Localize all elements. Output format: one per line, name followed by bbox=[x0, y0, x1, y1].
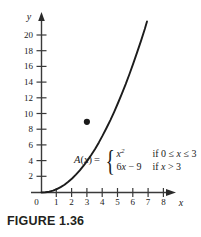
x-tick-label: 8 bbox=[161, 197, 166, 207]
y-axis-label: y bbox=[26, 11, 32, 22]
case-expression: 6x − 9 bbox=[116, 162, 152, 172]
y-tick-label: 4 bbox=[29, 156, 34, 166]
junction-point-marker bbox=[84, 119, 90, 125]
y-tick-label: 18 bbox=[24, 46, 34, 56]
case-expression: x2 bbox=[116, 148, 152, 159]
y-tick-label: 16 bbox=[24, 61, 34, 71]
case-condition: if x > 3 bbox=[152, 162, 181, 172]
x-tick-label: 7 bbox=[146, 197, 151, 207]
x-axis-tick-labels: 0 1 2 3 4 5 6 7 8 bbox=[34, 197, 166, 207]
case-row: 6x − 9 if x > 3 bbox=[116, 162, 196, 172]
y-tick-label: 8 bbox=[29, 124, 34, 134]
case-condition: if 0 ≤ x ≤ 3 bbox=[152, 149, 196, 159]
y-tick-label: 10 bbox=[24, 109, 34, 119]
x-axis-label: x bbox=[178, 197, 184, 208]
equals-sign: = bbox=[92, 155, 102, 166]
y-tick-label: 6 bbox=[29, 140, 34, 150]
case-row: x2 if 0 ≤ x ≤ 3 bbox=[116, 148, 196, 159]
x-tick-label: 1 bbox=[54, 197, 59, 207]
x-tick-label: 6 bbox=[131, 197, 136, 207]
y-tick-label: 2 bbox=[29, 171, 34, 181]
x-tick-label: 4 bbox=[100, 197, 105, 207]
y-tick-label: 20 bbox=[24, 30, 34, 40]
x-tick-label: 3 bbox=[85, 197, 90, 207]
figure-container: 2 4 6 8 10 12 14 16 18 20 0 1 2 3 4 5 6 … bbox=[0, 0, 201, 237]
cases-list: x2 if 0 ≤ x ≤ 3 6x − 9 if x > 3 bbox=[116, 148, 196, 172]
y-tick-label: 12 bbox=[24, 93, 33, 103]
x-tick-label: 5 bbox=[115, 197, 120, 207]
x-tick-label: 0 bbox=[34, 197, 39, 207]
y-axis bbox=[38, 12, 45, 192]
function-label: A(x) bbox=[74, 155, 92, 166]
left-brace: { bbox=[106, 148, 115, 173]
piecewise-formula: A(x) = { x2 if 0 ≤ x ≤ 3 6x − 9 if x > 3 bbox=[74, 141, 200, 179]
figure-caption: FIGURE 1.36 bbox=[7, 214, 84, 228]
y-axis-tick-labels: 2 4 6 8 10 12 14 16 18 20 bbox=[24, 30, 34, 181]
y-tick-label: 14 bbox=[24, 77, 34, 87]
x-tick-label: 2 bbox=[69, 197, 74, 207]
